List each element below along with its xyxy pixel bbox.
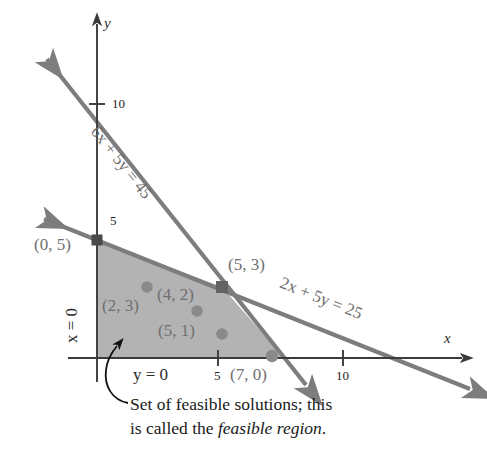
- y-tick-label-5: 5: [110, 214, 117, 227]
- vertex-label-5-3: (5, 3): [228, 256, 265, 273]
- caption-emphasis: feasible region: [218, 418, 322, 438]
- x-tick-label-5: 5: [214, 369, 221, 382]
- feasible-region-figure: y x 10 5 5 10 6x + 5y = 45 2x + 5y = 25 …: [0, 0, 487, 462]
- point-marker-4-2: [191, 305, 203, 317]
- vertex-label-0-5: (0, 5): [34, 236, 71, 253]
- point-label-4-2: (4, 2): [157, 286, 194, 303]
- x-tick-label-10: 10: [336, 369, 349, 382]
- constraint-label-x-equals-0: x = 0: [63, 308, 80, 343]
- caption-line-1: Set of feasible solutions; this: [130, 394, 332, 414]
- y-tick-label-10: 10: [112, 97, 125, 110]
- point-label-2-3: (2, 3): [102, 297, 139, 314]
- constraint-label-y-equals-0: y = 0: [133, 366, 168, 383]
- caption-line-2-suffix: .: [322, 418, 326, 438]
- figure-caption: Set of feasible solutions; this is calle…: [130, 393, 430, 440]
- point-marker-2-3: [141, 281, 153, 293]
- point-marker-5-1: [216, 328, 228, 340]
- y-axis-label: y: [104, 16, 111, 31]
- vertex-marker-7-0: [266, 350, 278, 362]
- vertex-label-7-0: (7, 0): [230, 366, 267, 383]
- vertex-marker-5-3: [216, 281, 228, 293]
- caption-line-2-prefix: is called the: [130, 418, 218, 438]
- vertex-marker-0-5: [92, 235, 103, 246]
- point-label-5-1: (5, 1): [158, 322, 195, 339]
- x-axis-label: x: [444, 331, 451, 346]
